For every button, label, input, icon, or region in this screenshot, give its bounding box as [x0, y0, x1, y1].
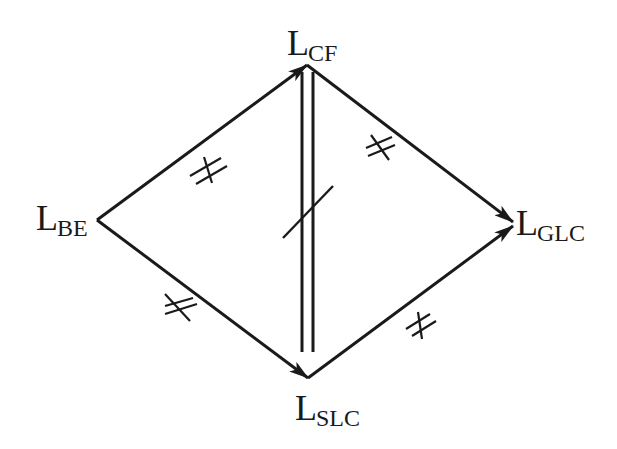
node-main-label: L — [516, 203, 538, 243]
node-main-label: L — [36, 198, 58, 238]
node-main-label: L — [287, 23, 309, 63]
edge-slc-glc — [308, 226, 513, 378]
not-equivalent-mark-icon — [366, 135, 395, 160]
not-equivalent-mark-icon — [190, 157, 227, 184]
node-l-be: LBE — [36, 200, 88, 236]
not-equivalent-mark-icon — [406, 312, 436, 339]
node-subscript: SLC — [316, 405, 360, 431]
diagram-canvas: LBE LCF LGLC LSLC — [0, 0, 617, 449]
edge-be-cf — [97, 65, 307, 220]
node-subscript: GLC — [537, 220, 585, 246]
not-equivalent-mark-icon — [165, 294, 197, 321]
negation-slash-icon — [283, 186, 333, 238]
node-l-glc: LGLC — [516, 205, 585, 241]
node-l-cf: LCF — [287, 25, 337, 61]
edge-be-slc — [97, 220, 308, 378]
edge-cf-slc-double — [283, 72, 333, 352]
edge-cf-glc — [307, 65, 513, 222]
node-main-label: L — [295, 388, 317, 428]
node-subscript: CF — [308, 40, 337, 66]
node-l-slc: LSLC — [295, 390, 360, 426]
node-subscript: BE — [57, 215, 88, 241]
